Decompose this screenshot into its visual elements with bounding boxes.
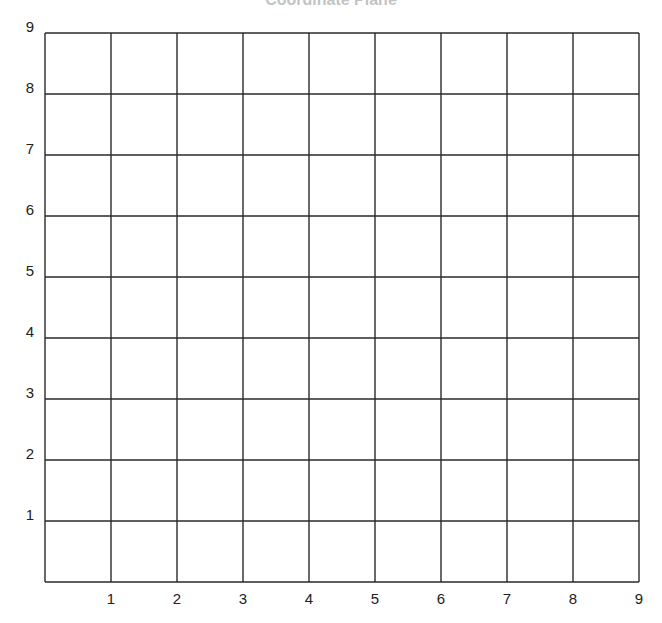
x-tick-label: 7 [503,590,511,607]
y-tick-label: 9 [26,18,34,35]
x-tick-label: 9 [635,590,643,607]
coordinate-grid: 123456789 123456789 [0,0,662,623]
y-axis-tick-labels: 123456789 [26,18,34,523]
x-tick-label: 4 [305,590,313,607]
y-tick-label: 1 [26,506,34,523]
x-axis-tick-labels: 123456789 [107,590,643,607]
y-tick-label: 2 [26,445,34,462]
x-tick-label: 6 [437,590,445,607]
x-tick-label: 8 [569,590,577,607]
grid-lines [45,33,639,582]
x-tick-label: 5 [371,590,379,607]
y-tick-label: 6 [26,201,34,218]
x-tick-label: 3 [239,590,247,607]
y-tick-label: 7 [26,140,34,157]
y-tick-label: 5 [26,262,34,279]
y-tick-label: 8 [26,79,34,96]
x-tick-label: 1 [107,590,115,607]
y-tick-label: 4 [26,323,34,340]
x-tick-label: 2 [173,590,181,607]
y-tick-label: 3 [26,384,34,401]
